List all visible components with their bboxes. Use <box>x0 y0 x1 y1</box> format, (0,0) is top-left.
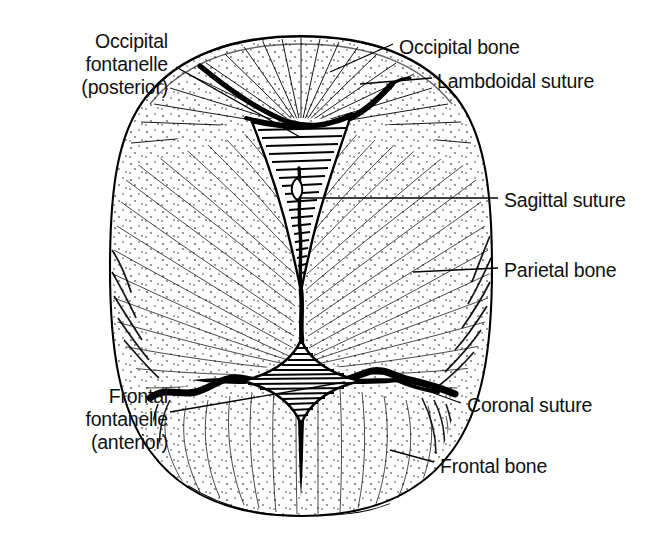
label-occipital-bone: Occipital bone <box>399 36 520 59</box>
skull-diagram-figure: Occipital fontanelle (posterior) Frontal… <box>0 0 669 541</box>
label-occipital-fontanelle: Occipital fontanelle (posterior) <box>18 30 168 99</box>
label-parietal-bone: Parietal bone <box>504 259 616 282</box>
label-lambdoidal-suture: Lambdoidal suture <box>437 70 594 93</box>
label-sagittal-suture: Sagittal suture <box>504 189 626 212</box>
label-frontal-fontanelle: Frontal fontanelle (anterior) <box>18 385 168 454</box>
label-coronal-suture: Coronal suture <box>467 394 592 417</box>
label-frontal-bone: Frontal bone <box>440 455 547 478</box>
